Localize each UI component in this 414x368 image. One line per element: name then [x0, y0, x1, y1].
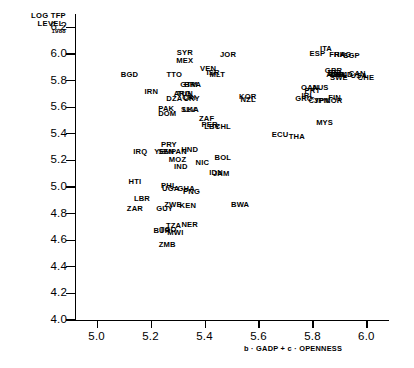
data-point-label: MEX: [176, 57, 193, 65]
data-point-label: BWA: [231, 201, 249, 209]
x-tick: [97, 320, 98, 328]
data-point-label: SWE: [330, 74, 348, 82]
x-tick-label: 5.8: [290, 330, 334, 342]
data-point-label: URY: [183, 96, 199, 104]
x-tick: [205, 320, 206, 328]
x-axis-line: [75, 320, 389, 321]
y-tick: [66, 160, 75, 161]
plot-area: SYRJORITAESPFRAHKGSGPMEXVENBGDTTOISRMLTG…: [75, 14, 388, 320]
y-tick: [66, 240, 75, 241]
x-tick-label: 5.0: [75, 330, 119, 342]
data-point-label: LKA: [183, 107, 199, 115]
data-point-label: ESP: [309, 50, 325, 58]
data-point-label: DOM: [158, 110, 176, 118]
data-point-label: ECU: [272, 131, 288, 139]
y-tick: [66, 213, 75, 214]
x-tick: [258, 320, 259, 328]
y-tick: [66, 80, 75, 81]
x-tick: [366, 320, 367, 328]
x-tick-label: 5.6: [236, 330, 280, 342]
y-tick-label: 4.2: [27, 286, 67, 298]
x-axis-title: b · GADP + c · OPENNESS: [244, 344, 342, 353]
y-tick-label: 4.6: [27, 233, 67, 245]
y-tick-label: 6.2: [27, 20, 67, 32]
data-point-label: ZMB: [159, 241, 176, 249]
data-point-label: ZAR: [127, 206, 143, 214]
y-tick-label: 5.2: [27, 153, 67, 165]
tfp-scatter-figure: LOG TFP LEVEL, 1988 4.04.24.44.64.85.05.…: [0, 0, 414, 368]
data-point-label: DZA: [166, 95, 182, 103]
y-tick: [66, 53, 75, 54]
data-point-label: KEN: [180, 202, 196, 210]
data-point-label: NIC: [196, 159, 210, 167]
data-point-label: BGD: [121, 72, 138, 80]
data-point-label: IRN: [145, 88, 159, 96]
data-point-label: HND: [181, 146, 198, 154]
data-point-label: TTO: [167, 71, 183, 79]
x-tick: [151, 320, 152, 328]
y-tick-label: 5.6: [27, 100, 67, 112]
y-tick: [66, 133, 75, 134]
x-tick: [312, 320, 313, 328]
y-tick-label: 4.8: [27, 207, 67, 219]
data-point-label: LBR: [134, 195, 150, 203]
y-tick: [66, 186, 75, 187]
x-tick-label: 6.0: [344, 330, 388, 342]
x-tick-label: 5.2: [129, 330, 173, 342]
data-point-label: MWI: [167, 229, 183, 237]
data-point-label: CHE: [358, 74, 374, 82]
data-point-label: IRQ: [133, 148, 147, 156]
data-point-label: JOR: [220, 51, 236, 59]
y-tick: [66, 293, 75, 294]
y-tick-label: 4.0: [27, 313, 67, 325]
data-point-label: MLT: [209, 72, 225, 80]
data-point-label: HTI: [129, 178, 142, 186]
data-point-label: BOL: [215, 155, 231, 163]
y-tick: [66, 266, 75, 267]
data-point-label: BRA: [184, 81, 201, 89]
data-point-label: NOR: [325, 97, 342, 105]
y-tick-label: 6.0: [27, 47, 67, 59]
y-tick: [66, 107, 75, 108]
data-point-label: NZL: [241, 96, 256, 104]
y-tick-label: 4.4: [27, 260, 67, 272]
data-point-label: CHL: [215, 123, 231, 131]
data-point-label: SGP: [343, 53, 360, 61]
data-point-label: JAM: [213, 170, 229, 178]
data-point-label: MYS: [316, 120, 333, 128]
x-tick-label: 5.4: [183, 330, 227, 342]
data-point-label: THA: [289, 133, 305, 141]
data-point-label: GUY: [156, 206, 173, 214]
y-tick-label: 5.4: [27, 127, 67, 139]
data-point-label: IND: [174, 163, 188, 171]
data-point-label: PNG: [183, 188, 200, 196]
y-tick: [66, 319, 75, 320]
data-point-label: NER: [181, 221, 197, 229]
y-tick-label: 5.0: [27, 180, 67, 192]
y-tick-label: 5.8: [27, 74, 67, 86]
y-tick: [66, 27, 75, 28]
